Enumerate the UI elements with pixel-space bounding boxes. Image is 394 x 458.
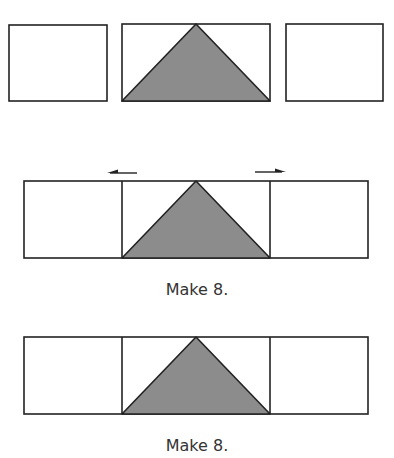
left-rectangle [9,25,107,101]
diagram-canvas [0,0,394,458]
step2-strip [24,169,368,259]
press-right-arrow-icon [255,169,286,173]
step3-caption: Make 8. [0,436,394,456]
flying-geese-unit [122,24,270,101]
step2-caption: Make 8. [0,280,394,300]
step3-strip [24,337,368,414]
press-left-arrow-icon [107,170,137,174]
step1-pieces [9,24,383,101]
right-rectangle [286,24,383,101]
